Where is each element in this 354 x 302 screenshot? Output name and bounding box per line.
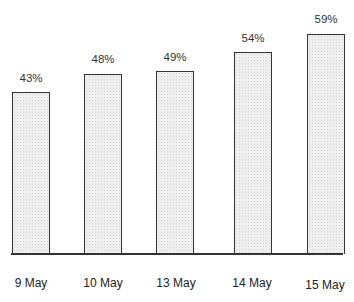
category-label-9-may: 9 May (0, 276, 66, 290)
bar-15-may (307, 34, 345, 254)
category-label-15-may: 15 May (290, 278, 354, 292)
bar-chart: 43% 48% 49% 54% 59% 9 May 10 May 13 May … (0, 0, 354, 302)
bar-9-may (12, 92, 50, 254)
category-label-10-may: 10 May (68, 276, 138, 290)
value-label-9-may: 43% (1, 72, 61, 84)
value-label-13-may: 49% (145, 51, 205, 63)
bar-14-may (234, 52, 272, 254)
bar-13-may (156, 71, 194, 254)
value-label-15-may: 59% (296, 13, 354, 25)
category-label-14-may: 14 May (217, 276, 287, 290)
x-axis-baseline (11, 253, 343, 255)
value-label-10-may: 48% (73, 53, 133, 65)
category-label-13-may: 13 May (141, 276, 211, 290)
bar-10-may (84, 74, 122, 254)
value-label-14-may: 54% (223, 32, 283, 44)
